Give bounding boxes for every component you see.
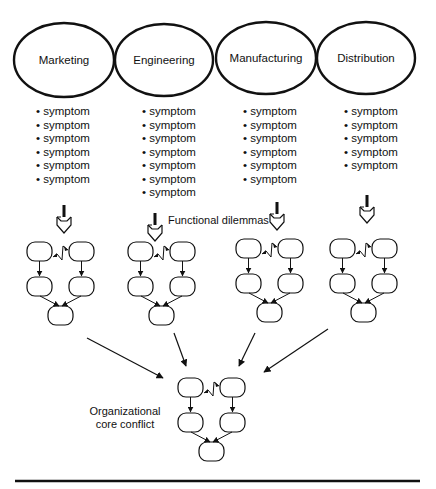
symptom-item: • symptom: [142, 159, 196, 171]
symptom-item: • symptom: [36, 119, 90, 131]
symptom-item: • symptom: [36, 173, 90, 185]
down-arrow-icon: [270, 202, 284, 230]
function-label: Engineering: [133, 54, 194, 66]
core-conflict-label-line1: Organizational: [90, 405, 161, 417]
symptom-item: • symptom: [142, 146, 196, 158]
function-label: Distribution: [337, 52, 395, 64]
symptom-list-engineering: • symptom • symptom • symptom • symptom …: [142, 105, 196, 198]
symptom-item: • symptom: [243, 159, 297, 171]
symptom-item: • symptom: [243, 119, 297, 131]
symptom-list-marketing: • symptom • symptom • symptom • symptom …: [36, 105, 90, 185]
function-marketing: Marketing: [14, 23, 114, 97]
symptom-item: • symptom: [243, 146, 297, 158]
symptom-item: • symptom: [344, 105, 398, 117]
symptom-item: • symptom: [142, 173, 196, 185]
symptom-item: • symptom: [142, 132, 196, 144]
symptom-item: • symptom: [243, 132, 297, 144]
core-conflict-label-line2: core conflict: [96, 418, 155, 430]
symptom-item: • symptom: [36, 105, 90, 117]
function-label: Marketing: [39, 54, 90, 66]
functional-dilemmas-label: Functional dilemmas: [168, 214, 269, 226]
dilemma-cloud-distribution: [330, 239, 397, 322]
converging-arrows: [87, 329, 328, 378]
symptom-item: • symptom: [344, 119, 398, 131]
symptom-item: • symptom: [36, 159, 90, 171]
down-arrow-icon: [57, 205, 71, 233]
core-conflict-cloud: [178, 378, 245, 461]
dilemma-cloud-engineering: [128, 242, 195, 325]
function-distribution: Distribution: [317, 22, 415, 94]
organizational-conflict-diagram: Marketing Engineering Manufacturing Dist…: [0, 0, 436, 489]
symptom-item: • symptom: [243, 105, 297, 117]
function-engineering: Engineering: [115, 24, 213, 96]
symptom-item: • symptom: [142, 119, 196, 131]
down-arrow-icon: [360, 195, 374, 223]
symptom-item: • symptom: [344, 132, 398, 144]
symptom-item: • symptom: [36, 132, 90, 144]
dilemma-cloud-marketing: [27, 242, 94, 325]
function-label: Manufacturing: [230, 52, 303, 64]
symptom-item: • symptom: [344, 146, 398, 158]
symptom-item: • symptom: [36, 146, 90, 158]
symptom-list-manufacturing: • symptom • symptom • symptom • symptom …: [243, 105, 297, 185]
symptom-item: • symptom: [344, 159, 398, 171]
down-arrow-icon: [148, 213, 162, 241]
symptom-item: • symptom: [142, 186, 196, 198]
symptom-item: • symptom: [243, 173, 297, 185]
function-manufacturing: Manufacturing: [216, 22, 316, 94]
symptom-item: • symptom: [142, 105, 196, 117]
dilemma-cloud-manufacturing: [236, 239, 303, 322]
symptom-list-distribution: • symptom • symptom • symptom • symptom …: [344, 105, 398, 171]
